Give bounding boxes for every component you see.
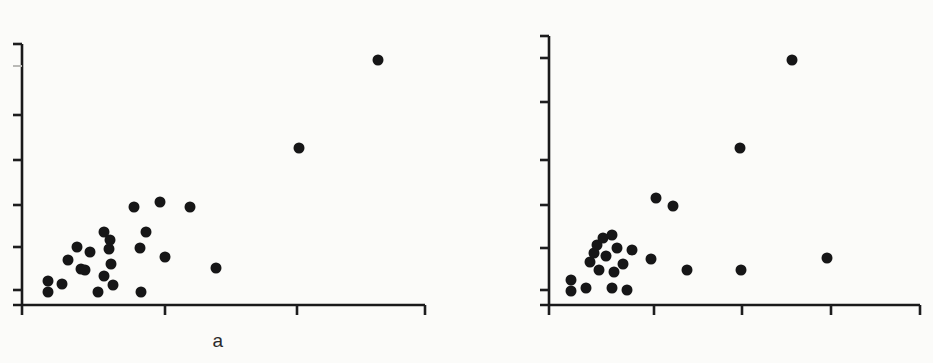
data-point: [736, 265, 747, 276]
panel-a: a: [0, 0, 466, 363]
data-point: [105, 235, 116, 246]
data-point: [155, 197, 166, 208]
data-point: [141, 227, 152, 238]
data-point: [627, 245, 638, 256]
data-point: [668, 201, 679, 212]
data-point: [609, 267, 620, 278]
data-point: [185, 202, 196, 213]
data-point: [651, 193, 662, 204]
data-point: [63, 255, 74, 266]
data-point: [129, 202, 140, 213]
scatter-plot-figure: a b: [0, 0, 933, 363]
data-point: [72, 242, 83, 253]
data-point: [566, 286, 577, 297]
panel-a-label: a: [198, 331, 238, 350]
data-point: [735, 143, 746, 154]
data-point: [57, 279, 68, 290]
data-point: [135, 243, 146, 254]
panel-b-plot-area: [466, 0, 933, 363]
data-point: [581, 283, 592, 294]
data-point: [373, 55, 384, 66]
data-point: [106, 259, 117, 270]
data-point: [43, 287, 54, 298]
data-point: [93, 287, 104, 298]
data-point: [80, 265, 91, 276]
data-point: [601, 251, 612, 262]
panel-b: b: [466, 0, 933, 363]
data-point: [211, 263, 222, 274]
data-point: [566, 275, 577, 286]
data-point: [607, 230, 618, 241]
data-point: [618, 259, 629, 270]
data-point: [294, 143, 305, 154]
data-point: [99, 271, 110, 282]
data-point: [108, 280, 119, 291]
data-point: [136, 287, 147, 298]
data-point: [43, 276, 54, 287]
data-point: [594, 265, 605, 276]
data-point: [646, 254, 657, 265]
data-point: [622, 285, 633, 296]
panel-a-plot-area: [0, 0, 466, 363]
data-point: [85, 247, 96, 258]
data-point: [682, 265, 693, 276]
data-point: [607, 283, 618, 294]
data-point: [160, 252, 171, 263]
data-point: [822, 253, 833, 264]
data-point: [612, 243, 623, 254]
data-point: [787, 55, 798, 66]
